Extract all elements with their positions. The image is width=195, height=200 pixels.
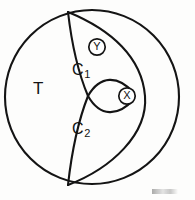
region-label-c1: C1 [72,62,91,80]
caption-remnant [152,189,178,194]
outer-boundary-circle [5,10,179,184]
region-label-c1-subscript: 1 [84,68,91,80]
marker-label-y: Y [89,41,105,52]
region-label-t: T [33,80,44,97]
region-label-c2-subscript: 2 [84,127,91,139]
c2-left-arc [68,96,88,185]
region-label-c1-base: C [72,61,84,78]
region-label-c2-base: C [72,120,84,137]
region-label-c2: C2 [72,121,91,139]
marker-label-x: X [119,90,135,101]
c1-left-arc [68,12,88,96]
topology-figure: T C1 C2 Y X [0,0,195,200]
diagram-canvas [0,0,195,200]
